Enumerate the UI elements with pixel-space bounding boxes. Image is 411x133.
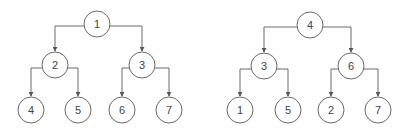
edge-arrow (240, 69, 251, 96)
tree-node: 5 (65, 97, 91, 123)
edge-arrow (264, 27, 297, 52)
node-label: 5 (285, 104, 291, 116)
edge-arrow (68, 68, 78, 96)
binary-tree-diagram: 12345674361527 (0, 0, 411, 133)
tree-node: 5 (275, 97, 301, 123)
edge-arrow (155, 68, 169, 96)
node-label: 4 (28, 104, 34, 116)
edge-arrow (331, 69, 338, 96)
tree-node: 7 (365, 97, 391, 123)
tree-node: 2 (318, 97, 344, 123)
tree-node: 3 (129, 52, 155, 78)
left-tree: 1234567 (18, 11, 182, 123)
node-label: 7 (375, 104, 381, 116)
node-label: 7 (166, 104, 172, 116)
edge-arrow (55, 26, 84, 51)
edge-arrow (31, 68, 42, 96)
node-label: 3 (139, 59, 145, 71)
tree-node: 6 (109, 97, 135, 123)
node-label: 2 (52, 59, 58, 71)
right-tree: 4361527 (227, 12, 391, 123)
edge-arrow (323, 27, 351, 52)
tree-node: 4 (297, 12, 323, 38)
tree-node: 1 (84, 11, 110, 37)
edge-arrow (277, 69, 288, 96)
edge-arrow (364, 69, 378, 96)
tree-node: 2 (42, 52, 68, 78)
node-label: 5 (75, 104, 81, 116)
tree-node: 1 (227, 97, 253, 123)
tree-node: 3 (251, 53, 277, 79)
node-label: 6 (119, 104, 125, 116)
node-label: 1 (237, 104, 243, 116)
tree-node: 7 (156, 97, 182, 123)
edge-arrow (122, 68, 129, 96)
node-label: 1 (94, 18, 100, 30)
node-label: 4 (307, 19, 313, 31)
node-label: 6 (348, 60, 354, 72)
tree-node: 4 (18, 97, 44, 123)
tree-node: 6 (338, 53, 364, 79)
edge-arrow (110, 26, 142, 51)
node-label: 3 (261, 60, 267, 72)
node-label: 2 (328, 104, 334, 116)
